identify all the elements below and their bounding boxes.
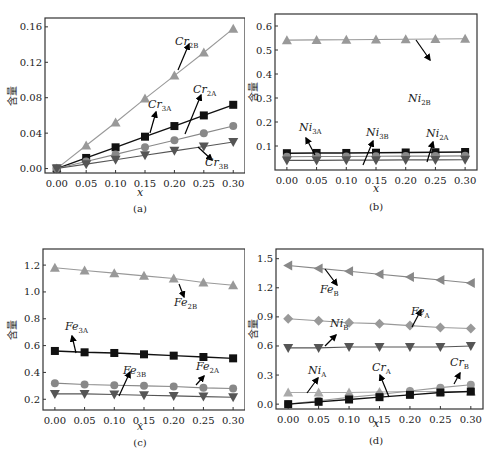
y-tick-label: 1.2: [24, 260, 40, 271]
y-tick-label: 0.16: [20, 21, 42, 32]
x-tick-label: 0.15: [368, 414, 390, 425]
x-tick-label: 0.00: [276, 175, 298, 186]
annotation-FeA: FeA: [410, 305, 431, 327]
chart-panel-d: 0.000.050.100.150.200.250.300.00.30.60.9…: [245, 225, 493, 454]
y-tick-label: 0.4: [256, 69, 272, 80]
y-tick-label: 0.6: [257, 340, 273, 351]
series-FeA: [283, 314, 476, 334]
x-tick-label: 0.25: [424, 175, 446, 186]
y-tick-label: 0.2: [24, 394, 40, 405]
y-tick-label: 0.1: [256, 141, 272, 152]
x-tick-label: 0.25: [192, 415, 214, 426]
x-tick-label: 0.05: [73, 415, 95, 426]
svg-text:CrA: CrA: [372, 361, 392, 376]
annotation-Ni2B: Ni2B: [407, 40, 431, 107]
y-tick-label: 1.2: [257, 282, 273, 293]
y-tick-label: 0.2: [256, 117, 272, 128]
annotation-NiA: NiA: [307, 364, 327, 393]
x-tick-label: 0.20: [163, 178, 185, 189]
x-tick-label: 0.20: [399, 414, 421, 425]
x-tick-label: 0.30: [460, 414, 482, 425]
x-tick-label: 0.00: [44, 415, 66, 426]
x-tick-label: 0.00: [277, 414, 299, 425]
y-tick-label: 0.12: [20, 57, 42, 68]
x-tick-label: 0.10: [335, 175, 357, 186]
annotation-Fe2B: Fe2B: [173, 284, 197, 311]
x-tick-label: 0.10: [338, 414, 360, 425]
y-tick-label: 0.0: [257, 399, 273, 410]
series-Fe2A: [51, 379, 237, 392]
series-FeB: [283, 260, 475, 287]
y-tick-label: 1.5: [257, 253, 273, 264]
y-tick-label: 0.8: [24, 313, 40, 324]
annotation-Cr3B: Cr3B: [198, 147, 228, 171]
x-tick-label: 0.30: [222, 415, 244, 426]
chart-d: 0.000.050.100.150.200.250.300.00.30.60.9…: [245, 225, 493, 454]
y-axis-label: 含量: [247, 82, 259, 102]
svg-text:Cr3A: Cr3A: [148, 98, 172, 113]
svg-text:Ni3B: Ni3B: [365, 126, 389, 141]
x-tick-label: 0.20: [163, 415, 185, 426]
y-tick-label: 0.08: [20, 92, 42, 103]
annotation-Cr2A: Cr2A: [185, 83, 217, 134]
x-tick-label: 0.20: [395, 175, 417, 186]
axes: 0.000.050.100.150.200.250.300.00.30.60.9…: [257, 249, 483, 425]
annotation-Fe2A: Fe2A: [195, 360, 220, 385]
panel-caption: (c): [133, 437, 147, 448]
chart-panel-c: 0.000.050.100.150.200.250.300.20.40.60.8…: [0, 225, 245, 454]
svg-text:Ni2A: Ni2A: [425, 127, 450, 142]
axes: 0.000.050.100.150.200.250.300.20.40.60.8…: [24, 249, 245, 426]
y-axis-label: 含量: [6, 320, 18, 340]
x-axis-label: x: [137, 186, 144, 199]
chart-c: 0.000.050.100.150.200.250.300.20.40.60.8…: [0, 225, 245, 454]
svg-text:Cr2B: Cr2B: [175, 35, 198, 50]
svg-text:Cr2A: Cr2A: [193, 83, 217, 98]
x-tick-label: 0.05: [75, 178, 97, 189]
x-tick-label: 0.25: [193, 178, 215, 189]
svg-text:Fe3A: Fe3A: [64, 320, 89, 335]
series-Ni2B: [282, 34, 470, 44]
y-axis-label: 含量: [6, 86, 18, 106]
chart-a: 0.000.050.100.150.200.250.300.000.040.08…: [0, 0, 245, 225]
chart-b: 0.000.050.100.150.200.250.300.10.20.30.4…: [245, 0, 493, 225]
y-tick-label: 0.9: [257, 311, 273, 322]
svg-text:Fe2B: Fe2B: [173, 296, 197, 311]
y-tick-label: 0.4: [24, 367, 40, 378]
chart-panel-b: 0.000.050.100.150.200.250.300.10.20.30.4…: [245, 0, 493, 225]
panel-caption: (d): [369, 435, 383, 446]
svg-text:FeB: FeB: [319, 283, 339, 298]
y-tick-label: 0.04: [20, 128, 42, 139]
x-tick-label: 0.10: [103, 415, 125, 426]
svg-text:NiA: NiA: [307, 364, 327, 379]
x-tick-label: 0.30: [454, 175, 476, 186]
y-tick-label: 0.5: [256, 45, 272, 56]
y-tick-label: 0.6: [24, 340, 40, 351]
svg-text:Ni2B: Ni2B: [407, 92, 431, 107]
x-tick-label: 0.05: [307, 414, 329, 425]
x-tick-label: 0.30: [222, 178, 244, 189]
panel-caption: (b): [369, 201, 383, 212]
x-tick-label: 0.10: [104, 178, 126, 189]
y-tick-label: 0.6: [256, 21, 272, 32]
y-tick-label: 1.0: [24, 286, 40, 297]
x-axis-label: x: [137, 420, 144, 433]
annotation-CrB: CrB: [450, 356, 469, 384]
svg-text:Fe3B: Fe3B: [122, 364, 146, 379]
annotation-Fe3B: Fe3B: [119, 364, 146, 396]
svg-text:FeA: FeA: [410, 305, 431, 320]
annotation-Fe3A: Fe3A: [64, 320, 89, 353]
panel-caption: (a): [133, 203, 147, 214]
series-Fe3B: [50, 390, 238, 402]
x-tick-label: 0.00: [46, 178, 68, 189]
x-axis-label: x: [373, 417, 380, 430]
x-tick-label: 0.05: [305, 175, 327, 186]
y-tick-label: 0.3: [257, 370, 273, 381]
chart-panel-a: 0.000.050.100.150.200.250.300.000.040.08…: [0, 0, 245, 225]
x-axis-label: x: [373, 182, 380, 195]
svg-text:Fe2A: Fe2A: [195, 360, 220, 375]
series-NiB: [283, 342, 476, 353]
svg-text:Ni3A: Ni3A: [298, 121, 323, 136]
x-tick-label: 0.25: [429, 414, 451, 425]
series-Fe2B: [50, 263, 238, 289]
svg-text:NiB: NiB: [329, 317, 348, 332]
